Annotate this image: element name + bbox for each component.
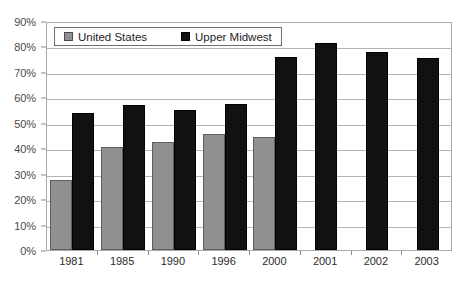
y-axis-tick-label: 80% (0, 41, 41, 53)
y-axis-tick-mark (41, 98, 46, 99)
x-axis-tick-label: 1985 (110, 255, 134, 267)
x-axis-tick-label: 2003 (414, 255, 438, 267)
bar-upper-midwest-1996 (225, 104, 247, 250)
x-axis-tick-mark (249, 251, 250, 255)
bar-united-states-2000 (253, 137, 275, 250)
x-axis-tick-mark (148, 251, 149, 255)
legend-label-upper-midwest: Upper Midwest (195, 31, 272, 43)
y-axis-tick-label: 60% (0, 92, 41, 104)
x-axis-tick-label: 2002 (364, 255, 388, 267)
y-axis-tick-label: 90% (0, 16, 41, 28)
bar-united-states-1990 (152, 142, 174, 250)
y-axis-tick-label: 10% (0, 220, 41, 232)
black-square-icon (181, 32, 190, 41)
y-axis-tick-mark (41, 123, 46, 124)
y-axis-tick-mark (41, 174, 46, 175)
bars-layer (47, 23, 451, 250)
y-axis-tick-mark (41, 225, 46, 226)
y-axis-tick-mark (41, 47, 46, 48)
plot-area (46, 22, 452, 251)
x-axis-tick-label: 1981 (59, 255, 83, 267)
bar-upper-midwest-1990 (174, 110, 196, 250)
bar-upper-midwest-2003 (417, 58, 439, 250)
gray-square-icon (64, 32, 73, 41)
y-axis-tick-mark (41, 149, 46, 150)
x-axis-tick-label: 1990 (161, 255, 185, 267)
x-axis-tick-label: 1996 (211, 255, 235, 267)
x-axis-tick-label: 2000 (262, 255, 286, 267)
y-axis-tick-label: 30% (0, 169, 41, 181)
bar-upper-midwest-1981 (72, 113, 94, 250)
y-axis-tick-label: 70% (0, 67, 41, 79)
bar-chart: 0%10%20%30%40%50%60%70%80%90% 1981198519… (0, 0, 473, 291)
bar-upper-midwest-2000 (275, 57, 297, 250)
bar-upper-midwest-2002 (366, 52, 388, 250)
bar-upper-midwest-1985 (123, 105, 145, 250)
legend-item-united-states: United States (64, 31, 147, 43)
x-axis-tick-label: 2001 (313, 255, 337, 267)
y-axis-tick-mark (41, 22, 46, 23)
bar-upper-midwest-2001 (315, 43, 337, 250)
bar-united-states-1985 (101, 147, 123, 250)
x-axis-tick-mark (401, 251, 402, 255)
y-axis-tick-label: 20% (0, 194, 41, 206)
legend-item-upper-midwest: Upper Midwest (181, 31, 272, 43)
x-axis-tick-mark (300, 251, 301, 255)
y-axis-tick-label: 0% (0, 245, 41, 257)
x-axis-tick-mark (198, 251, 199, 255)
y-axis-tick-label: 40% (0, 143, 41, 155)
x-axis: 19811985199019962000200120022003 (46, 255, 452, 275)
y-axis-tick-mark (41, 251, 46, 252)
x-axis-tick-mark (351, 251, 352, 255)
x-axis-tick-mark (97, 251, 98, 255)
bar-united-states-1981 (50, 180, 72, 250)
chart-legend: United States Upper Midwest (54, 27, 282, 46)
y-axis-tick-mark (41, 200, 46, 201)
legend-label-united-states: United States (78, 31, 147, 43)
y-axis-tick-mark (41, 72, 46, 73)
y-axis-tick-label: 50% (0, 118, 41, 130)
bar-united-states-1996 (203, 134, 225, 250)
